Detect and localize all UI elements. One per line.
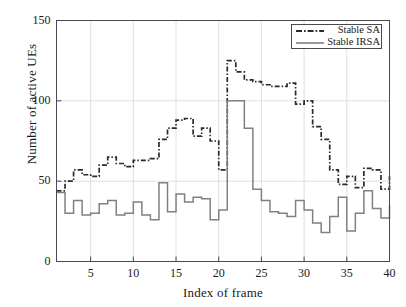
x-tick-label: 5 (76, 266, 106, 281)
x-tick-label: 20 (204, 266, 234, 281)
x-tick-label: 35 (332, 266, 362, 281)
legend-swatch-stable-sa (296, 30, 324, 32)
x-tick-label: 40 (375, 266, 405, 281)
x-tick-label: 30 (289, 266, 319, 281)
series-line-stable-sa (57, 61, 390, 191)
y-tick-label: 0 (17, 254, 51, 269)
x-tick-label: 15 (161, 266, 191, 281)
chart-legend: Stable SA Stable IRSA (291, 24, 382, 49)
axis-frame (57, 21, 390, 262)
legend-label-stable-sa: Stable SA (338, 24, 380, 36)
chart-figure: Number of active UEs Index of frame 0501… (0, 0, 406, 307)
legend-label-stable-irsa: Stable IRSA (327, 36, 380, 48)
legend-swatch-stable-irsa (296, 42, 324, 44)
series-line-stable-irsa (57, 101, 390, 233)
y-tick-label: 150 (17, 13, 51, 28)
grid-lines (57, 21, 390, 262)
x-tick-label: 10 (118, 266, 148, 281)
x-tick-label: 25 (246, 266, 276, 281)
x-axis-label: Index of frame (56, 285, 390, 301)
legend-entry-stable-irsa: Stable IRSA (292, 37, 383, 49)
y-tick-label: 50 (17, 173, 51, 188)
data-series (57, 61, 390, 233)
axis-ticks (57, 21, 390, 262)
y-tick-label: 100 (17, 93, 51, 108)
